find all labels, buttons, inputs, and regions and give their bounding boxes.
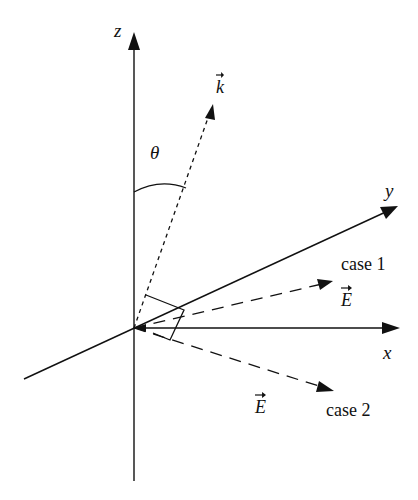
k-arrowhead-icon xyxy=(205,104,215,120)
vector-arrow-icon xyxy=(341,284,352,292)
e-case1-arrowhead-icon xyxy=(317,279,333,290)
z-axis xyxy=(128,32,140,481)
k-vector-label: k xyxy=(216,77,224,98)
vector-arrow-icon xyxy=(216,71,224,79)
z-axis-label: z xyxy=(114,20,121,42)
case2-label: case 2 xyxy=(326,400,370,421)
z-axis-arrowhead-icon xyxy=(128,32,140,50)
k-vector xyxy=(134,104,215,328)
case1-label: case 1 xyxy=(341,254,385,275)
y-axis-label: y xyxy=(385,180,393,202)
y-axis-arrowhead-icon xyxy=(380,206,398,219)
e-case2-label: E xyxy=(255,397,266,418)
e-case2-arrowhead-icon xyxy=(316,381,334,392)
theta-label: θ xyxy=(150,142,159,164)
theta-arc xyxy=(134,184,186,192)
diagram-canvas: z y x k θ case 1 E E case 2 xyxy=(0,0,418,500)
e-case1-label: E xyxy=(341,290,352,311)
e-case1-vector xyxy=(134,279,333,328)
vector-arrow-icon xyxy=(255,391,266,399)
x-axis-arrowhead-icon xyxy=(382,322,400,334)
diagram-graphics xyxy=(0,0,418,500)
x-axis-label: x xyxy=(383,342,391,364)
